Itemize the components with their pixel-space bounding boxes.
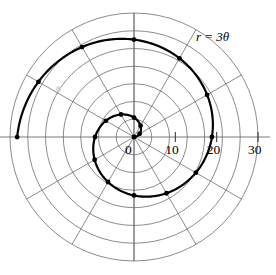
data-marker bbox=[119, 112, 124, 117]
data-marker bbox=[132, 135, 137, 140]
polar-chart-canvas: 0102030 bbox=[0, 0, 276, 275]
data-marker bbox=[210, 135, 215, 140]
data-marker bbox=[193, 170, 198, 175]
data-marker bbox=[177, 56, 182, 61]
data-marker bbox=[138, 123, 143, 128]
data-marker bbox=[132, 193, 137, 198]
tick-label-20: 20 bbox=[207, 142, 221, 157]
data-marker bbox=[80, 45, 85, 50]
data-marker bbox=[132, 115, 137, 120]
data-marker bbox=[137, 131, 142, 136]
data-marker bbox=[92, 157, 97, 162]
equation-annotation: r = 3θ bbox=[196, 29, 229, 45]
tick-label-10: 10 bbox=[165, 142, 179, 157]
grid-spoke-60 bbox=[134, 30, 196, 137]
grid-spoke-330 bbox=[134, 137, 241, 199]
tick-labels: 0102030 bbox=[125, 142, 262, 157]
tick-label-30: 30 bbox=[248, 142, 262, 157]
data-marker bbox=[93, 135, 98, 140]
data-marker bbox=[164, 191, 169, 196]
data-marker bbox=[205, 92, 210, 97]
data-marker bbox=[106, 180, 111, 185]
grid-spoke-30 bbox=[134, 75, 241, 137]
data-marker bbox=[132, 37, 137, 42]
data-marker bbox=[104, 118, 109, 123]
tick-label-0: 0 bbox=[125, 142, 132, 157]
paper-smudge bbox=[56, 86, 61, 92]
data-marker bbox=[36, 79, 41, 84]
grid-spoke-150 bbox=[27, 75, 134, 137]
polar-plot-figure: 0102030 r = 3θ bbox=[0, 0, 276, 275]
data-marker bbox=[15, 135, 20, 140]
